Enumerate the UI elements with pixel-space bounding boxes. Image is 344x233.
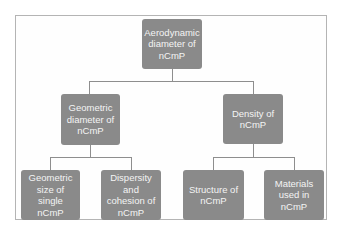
node-structure: Structure of nCmP	[183, 170, 244, 220]
connector-to-geometric-diameter	[89, 81, 90, 94]
connector-density-down	[253, 144, 254, 157]
node-label: Density of nCmP	[231, 108, 275, 131]
node-label: Structure of nCmP	[186, 184, 241, 207]
node-geometric-size-single: Geometric size of single nCmP	[21, 170, 80, 220]
connector-root-down	[172, 69, 173, 81]
connector-to-density	[253, 81, 254, 94]
node-label: Materials used in nCmP	[273, 178, 315, 213]
connector-density-horizontal	[213, 157, 295, 158]
connector-to-dispersity	[131, 157, 132, 170]
node-label: Aerodynamic diameter of nCmP	[144, 27, 199, 62]
node-geometric-diameter: Geometric diameter of nCmP	[61, 94, 120, 145]
connector-to-structure	[213, 157, 214, 170]
connector-geometric-down	[90, 145, 91, 157]
node-materials-used: Materials used in nCmP	[264, 170, 324, 220]
node-dispersity-cohesion: Dispersity and cohesion of nCmP	[101, 170, 161, 220]
connector-to-materials	[294, 157, 295, 170]
connector-geometric-horizontal	[50, 157, 132, 158]
node-aerodynamic-diameter: Aerodynamic diameter of nCmP	[142, 19, 202, 69]
connector-to-geometric-size	[50, 157, 51, 170]
connector-root-horizontal	[89, 81, 254, 82]
node-label: Geometric size of single nCmP	[24, 172, 77, 218]
node-density: Density of nCmP	[223, 94, 283, 144]
node-label: Dispersity and cohesion of nCmP	[104, 172, 158, 218]
node-label: Geometric diameter of nCmP	[64, 102, 117, 137]
